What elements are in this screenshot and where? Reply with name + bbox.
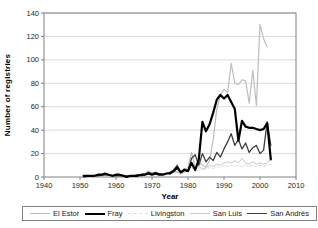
x-tick-label: 2010 (288, 181, 305, 190)
y-tick-label: 140 (26, 9, 39, 18)
y-tick-label: 60 (31, 102, 39, 111)
legend-line-sample-fray (85, 213, 105, 215)
plot-background (44, 13, 296, 177)
legend-label-san-andrés: San Andrés (270, 209, 309, 218)
legend-line-sample-san-andrés (247, 213, 267, 214)
x-tick-label: 1980 (180, 181, 197, 190)
x-tick-label: 1990 (216, 181, 233, 190)
legend-line-sample-el-estor (30, 213, 50, 214)
y-tick-label: 40 (31, 126, 39, 135)
y-tick-label: 100 (26, 55, 39, 64)
legend-line-sample-livingston (128, 213, 148, 214)
x-tick-label: 2000 (252, 181, 269, 190)
legend-item-fray: Fray (85, 209, 123, 218)
x-axis-title: Year (140, 192, 200, 201)
y-tick-label: 80 (31, 79, 39, 88)
legend-label-livingston: Livingston (151, 209, 185, 218)
y-axis-title: Number of registries (3, 13, 15, 177)
legend-item-livingston: Livingston (128, 209, 185, 218)
chart-canvas: 0204060801001201401940195019601970198019… (0, 0, 318, 228)
legend-item-el-estor: El Estor (30, 209, 79, 218)
legend-box: El EstorFrayLivingstonSan LuisSan Andrés (22, 206, 317, 221)
legend-item-san-andrés: San Andrés (247, 209, 309, 218)
x-tick-label: 1950 (72, 181, 89, 190)
x-tick-label: 1970 (144, 181, 161, 190)
x-tick-label: 1960 (108, 181, 125, 190)
legend-label-el-estor: El Estor (53, 209, 79, 218)
legend-label-san-luis: San Luis (213, 209, 242, 218)
y-tick-label: 120 (26, 32, 39, 41)
legend-item-san-luis: San Luis (190, 209, 242, 218)
legend-line-sample-san-luis (190, 213, 210, 214)
y-tick-label: 20 (31, 149, 39, 158)
legend-label-fray: Fray (108, 209, 123, 218)
x-tick-label: 1940 (36, 181, 53, 190)
